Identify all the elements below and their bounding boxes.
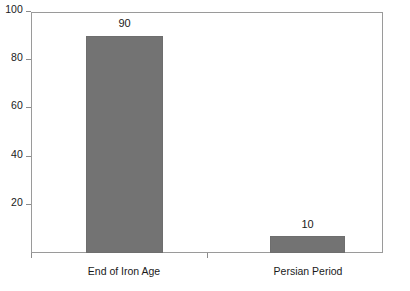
- bar-value-label: 10: [267, 219, 348, 230]
- category-label-persian-period: Persian Period: [248, 266, 368, 277]
- bar-persian-period[interactable]: [270, 236, 345, 253]
- bar-end-of-iron-age[interactable]: [86, 36, 163, 253]
- bar-chart: 100 80 60 40 20 90 End of Iron Age 10 Pe…: [0, 0, 410, 291]
- category-label-end-of-iron-age: End of Iron Age: [64, 266, 184, 277]
- bar-value-label: 90: [84, 18, 165, 29]
- bars-layer: 90 End of Iron Age 10 Persian Period: [0, 0, 410, 291]
